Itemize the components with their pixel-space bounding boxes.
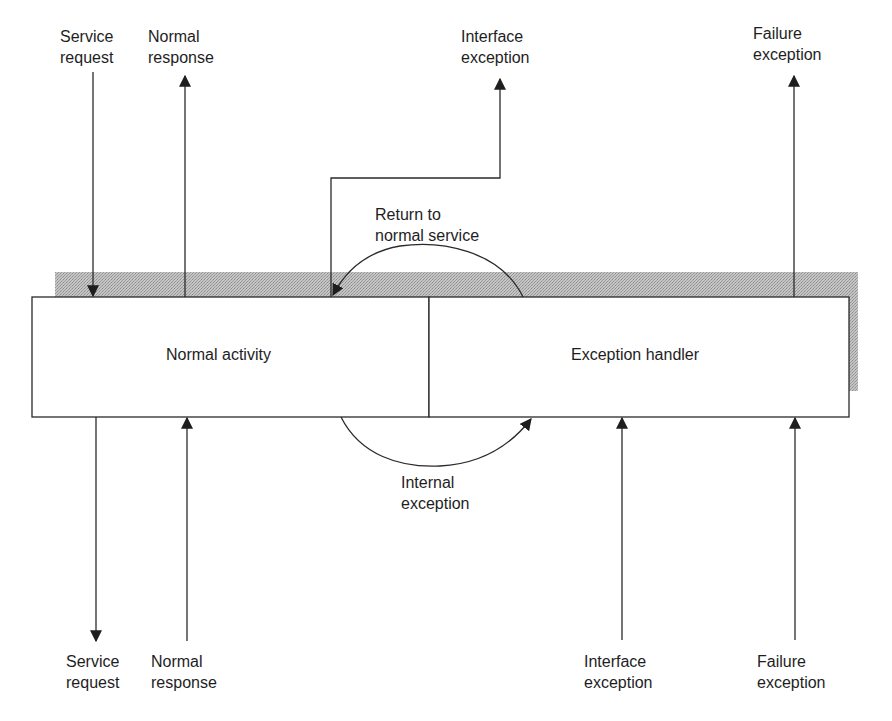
top-failure-exception-label: Failure exception — [753, 23, 822, 65]
label-line: exception — [584, 672, 653, 693]
return-to-normal-label: Return to normal service — [375, 204, 479, 246]
label-line: exception — [401, 493, 470, 514]
top-interface-exception-arrow — [331, 79, 500, 297]
bottom-service-request-label: Service request — [66, 651, 119, 693]
label-line: request — [66, 672, 119, 693]
bottom-normal-response-label: Normal response — [151, 651, 217, 693]
label-line: Interface — [584, 651, 653, 672]
exception-handler-label: Exception handler — [571, 345, 699, 365]
label-line: exception — [461, 47, 530, 68]
bottom-failure-exception-label: Failure exception — [757, 651, 826, 693]
top-interface-exception-label: Interface exception — [461, 26, 530, 68]
label-line: request — [60, 47, 113, 68]
label-line: normal service — [375, 225, 479, 246]
label-line: Failure — [757, 651, 826, 672]
label-line: Service — [60, 26, 113, 47]
top-normal-response-label: Normal response — [148, 26, 214, 68]
normal-activity-label: Normal activity — [166, 345, 271, 365]
internal-exception-arc — [341, 417, 531, 466]
label-line: Normal — [151, 651, 217, 672]
label-line: Failure — [753, 23, 822, 44]
bottom-interface-exception-label: Interface exception — [584, 651, 653, 693]
label-line: Service — [66, 651, 119, 672]
top-service-request-label: Service request — [60, 26, 113, 68]
label-line: exception — [757, 672, 826, 693]
label-line: Normal — [148, 26, 214, 47]
label-line: response — [148, 47, 214, 68]
label-line: Return to — [375, 204, 479, 225]
diagram-canvas — [0, 0, 892, 721]
label-line: Interface — [461, 26, 530, 47]
label-line: exception — [753, 44, 822, 65]
internal-exception-label: Internal exception — [401, 472, 470, 514]
label-line: response — [151, 672, 217, 693]
label-line: Internal — [401, 472, 470, 493]
